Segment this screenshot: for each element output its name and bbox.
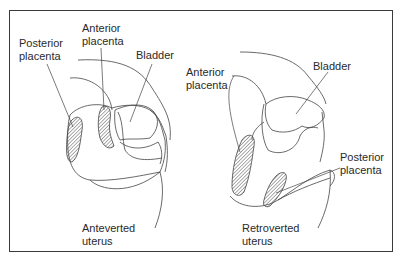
label-retroverted-uterus: Retroverted uterus [242, 222, 299, 248]
label-line: Anterior [186, 66, 228, 79]
label-line: Anteverted [82, 222, 135, 235]
leader-bladder-right [296, 72, 328, 114]
label-line: placenta [19, 50, 63, 63]
leader-bladder-left [130, 64, 152, 122]
leader-anterior-placenta-left [101, 48, 104, 110]
label-anterior-placenta-left: Anterior placenta [82, 22, 124, 48]
leader-anterior-placenta-right [229, 76, 240, 152]
label-bladder-left: Bladder [136, 49, 174, 62]
label-line: Bladder [136, 49, 174, 62]
anterior-placenta-right [232, 135, 254, 195]
label-posterior-placenta-left: Posterior placenta [19, 37, 63, 63]
label-line: uterus [242, 235, 299, 248]
label-line: Retroverted [242, 222, 299, 235]
posterior-placenta-left [67, 117, 83, 162]
anterior-placenta-left [98, 106, 114, 148]
leader-posterior-placenta-left [47, 64, 73, 127]
label-anterior-placenta-right: Anterior placenta [186, 66, 228, 92]
label-line: placenta [82, 35, 124, 48]
label-anteverted-uterus: Anteverted uterus [82, 222, 135, 248]
label-line: Anterior [82, 22, 124, 35]
label-bladder-right: Bladder [313, 60, 351, 73]
label-posterior-placenta-right: Posterior placenta [340, 151, 384, 177]
label-line: Posterior [19, 37, 63, 50]
label-line: placenta [340, 164, 384, 177]
label-line: Bladder [313, 60, 351, 73]
anteverted-uterus-drawing [68, 60, 171, 228]
label-line: uterus [82, 235, 135, 248]
label-line: placenta [186, 79, 228, 92]
label-line: Posterior [340, 151, 384, 164]
